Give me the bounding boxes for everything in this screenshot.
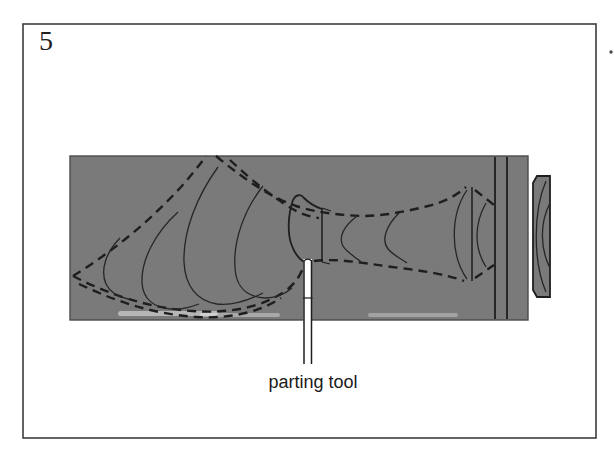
figure-number: 5 — [39, 27, 53, 55]
figure-canvas: 5 parting tool — [0, 0, 614, 451]
print-artifact-dot — [609, 50, 612, 53]
parting-tool-label: parting tool — [233, 372, 393, 394]
wood-blank — [70, 156, 528, 320]
highlight-streak — [368, 313, 458, 317]
parting-tool-kerf — [304, 259, 313, 364]
